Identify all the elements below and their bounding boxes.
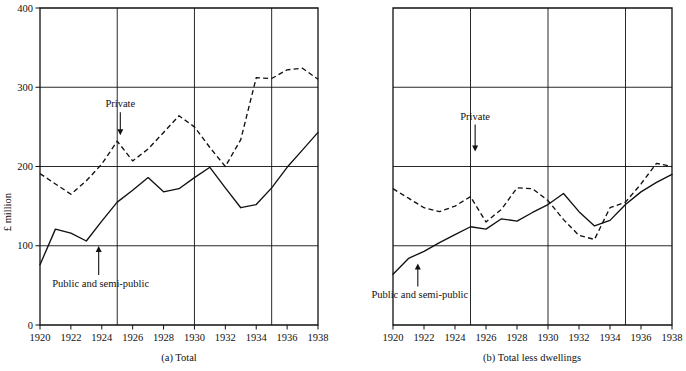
private-arrow-head xyxy=(472,146,478,152)
private-annotation-label: Private xyxy=(105,98,135,109)
panel-caption-atotal: (a) Total xyxy=(161,352,197,364)
y-axis-label: £ million xyxy=(2,192,13,231)
panel-caption-btotallessdwellings: (b) Total less dwellings xyxy=(483,352,581,364)
x-tick-label-1936: 1936 xyxy=(631,332,652,343)
x-tick-label-1938: 1938 xyxy=(662,332,683,343)
y-tick-label-0: 0 xyxy=(28,320,33,331)
x-tick-label-1920: 1920 xyxy=(30,332,51,343)
x-tick-label-1934: 1934 xyxy=(600,332,622,343)
x-tick-label-1926: 1926 xyxy=(476,332,497,343)
y-tick-label-100: 100 xyxy=(17,240,33,251)
x-tick-label-1932: 1932 xyxy=(215,332,236,343)
x-tick-label-1934: 1934 xyxy=(246,332,268,343)
x-tick-label-1924: 1924 xyxy=(445,332,467,343)
x-tick-label-1930: 1930 xyxy=(184,332,205,343)
chart-panel-btotallessdwellings: 1920192219241926192819301932193419361938… xyxy=(371,8,682,364)
x-tick-label-1932: 1932 xyxy=(569,332,590,343)
series-line-public-and-semi-public xyxy=(393,174,672,274)
private-annotation-label: Private xyxy=(460,111,490,122)
x-tick-label-1936: 1936 xyxy=(277,332,298,343)
x-tick-label-1922: 1922 xyxy=(60,332,81,343)
public-arrow-head xyxy=(96,246,102,252)
y-tick-label-300: 300 xyxy=(17,82,33,93)
y-tick-label-200: 200 xyxy=(17,161,33,172)
x-tick-label-1924: 1924 xyxy=(91,332,113,343)
y-tick-label-400: 400 xyxy=(17,3,33,14)
x-tick-label-1926: 1926 xyxy=(122,332,143,343)
private-arrow-head xyxy=(117,129,123,135)
x-tick-label-1928: 1928 xyxy=(153,332,174,343)
x-tick-label-1920: 1920 xyxy=(383,332,404,343)
x-tick-label-1938: 1938 xyxy=(308,332,329,343)
x-tick-label-1930: 1930 xyxy=(538,332,559,343)
chart-panel-atotal: 1920192219241926192819301932193419361938… xyxy=(2,3,329,364)
public-annotation-label: Public and semi-public xyxy=(52,278,149,289)
x-tick-label-1922: 1922 xyxy=(414,332,435,343)
series-line-public-and-semi-public xyxy=(40,132,318,264)
public-annotation-label: Public and semi-public xyxy=(371,289,468,300)
x-tick-label-1928: 1928 xyxy=(507,332,528,343)
double-line-chart-figure: 1920192219241926192819301932193419361938… xyxy=(0,0,686,371)
public-arrow-head xyxy=(415,263,421,269)
